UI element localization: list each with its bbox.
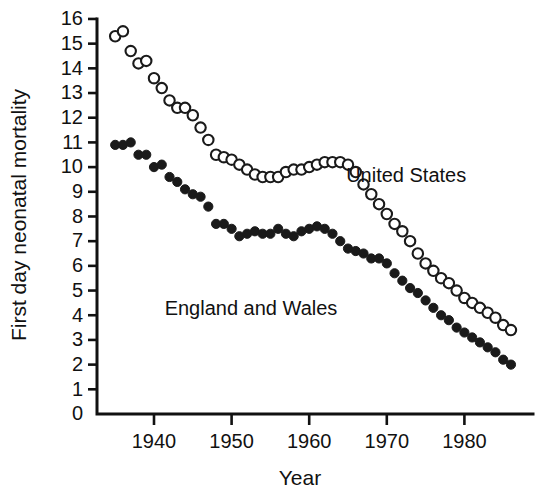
y-tick-label: 0 <box>72 402 83 424</box>
data-point <box>118 26 128 36</box>
y-tick-label: 9 <box>72 180 83 202</box>
x-axis-title: Year <box>279 466 321 489</box>
axis-lines <box>97 19 533 414</box>
x-tick-label: 1950 <box>209 430 254 452</box>
label-england-and-wales: England and Wales <box>165 297 338 319</box>
data-point <box>204 202 213 211</box>
chart-container: 012345678910111213141516 194019501960197… <box>0 0 535 492</box>
data-point <box>506 360 515 369</box>
y-tick-label: 11 <box>62 131 83 153</box>
data-point <box>382 259 391 268</box>
y-tick-label: 8 <box>72 205 83 227</box>
y-tick-label: 5 <box>72 279 83 301</box>
y-tick-label: 10 <box>61 155 83 177</box>
data-point <box>413 248 423 258</box>
data-point <box>173 177 182 186</box>
y-tick-label: 6 <box>72 254 83 276</box>
data-point <box>126 46 136 56</box>
data-point <box>157 160 166 169</box>
y-axis-ticks: 012345678910111213141516 <box>61 7 97 424</box>
data-point <box>188 110 198 120</box>
data-point <box>444 316 453 325</box>
y-tick-label: 2 <box>72 353 83 375</box>
y-tick-label: 1 <box>72 378 83 400</box>
data-point <box>405 236 415 246</box>
y-tick-label: 16 <box>61 7 83 29</box>
x-tick-label: 1940 <box>132 430 177 452</box>
y-tick-label: 15 <box>61 32 83 54</box>
data-point <box>336 237 345 246</box>
x-axis-ticks: 19401950196019701980 <box>132 414 487 452</box>
data-point <box>227 224 236 233</box>
x-tick-label: 1960 <box>287 430 332 452</box>
axes <box>97 19 533 414</box>
data-point <box>149 73 159 83</box>
data-point <box>196 192 205 201</box>
data-point <box>142 150 151 159</box>
data-point <box>382 209 392 219</box>
data-point <box>421 296 430 305</box>
data-point <box>366 189 376 199</box>
x-tick-label: 1980 <box>442 430 487 452</box>
data-point <box>390 269 399 278</box>
data-point <box>374 199 384 209</box>
data-point <box>413 288 422 297</box>
data-point <box>397 226 407 236</box>
data-point <box>195 122 205 132</box>
data-point <box>491 348 500 357</box>
neonatal-mortality-scatter-chart: 012345678910111213141516 194019501960197… <box>0 0 535 492</box>
y-tick-label: 14 <box>61 57 83 79</box>
data-point <box>328 229 337 238</box>
data-point <box>398 276 407 285</box>
data-point <box>126 138 135 147</box>
data-point <box>506 325 516 335</box>
data-point <box>157 83 167 93</box>
y-tick-label: 3 <box>72 328 83 350</box>
y-tick-label: 7 <box>72 229 83 251</box>
data-point <box>141 56 151 66</box>
x-tick-label: 1970 <box>365 430 410 452</box>
data-point <box>429 303 438 312</box>
data-point <box>203 135 213 145</box>
y-tick-label: 4 <box>72 304 83 326</box>
y-tick-label: 12 <box>61 106 83 128</box>
y-tick-label: 13 <box>61 81 83 103</box>
label-united-states: United States <box>346 164 466 186</box>
y-axis-title: First day neonatal mortality <box>7 88 30 341</box>
